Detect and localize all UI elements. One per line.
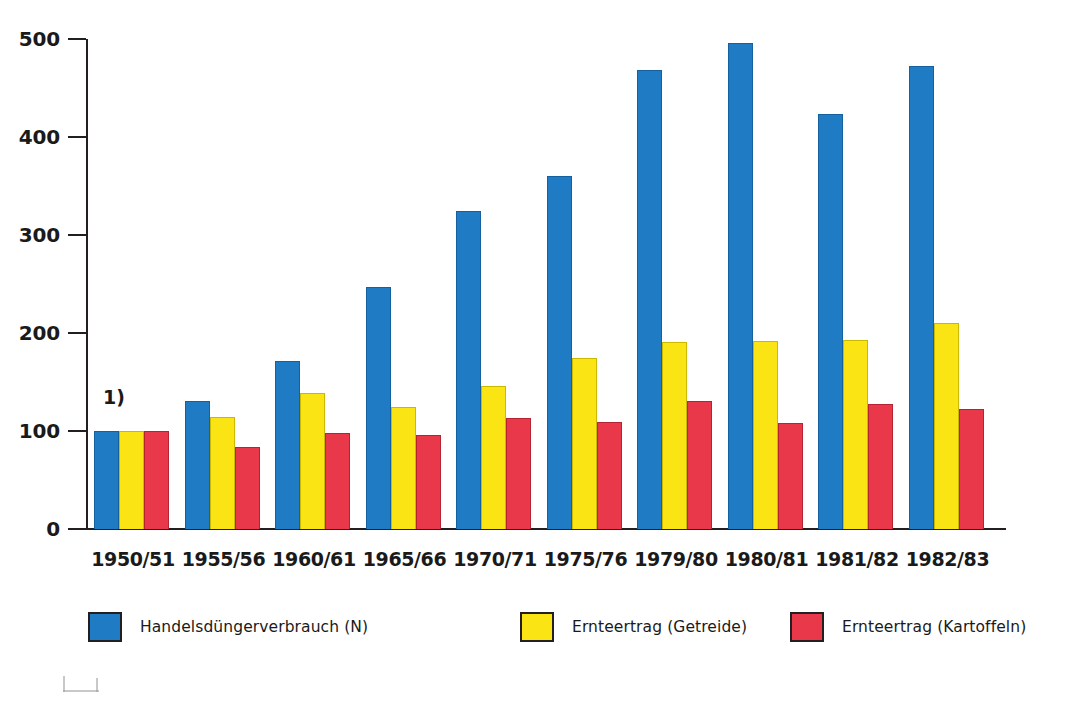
bar-blue-1975-76 bbox=[547, 176, 572, 529]
legend-swatch-yellow bbox=[520, 612, 554, 642]
chart-legend: Handelsdüngerverbrauch (N)Ernteertrag (G… bbox=[0, 612, 1065, 656]
x-axis-label-1950-51: 1950/51 bbox=[91, 548, 174, 570]
bar-group-1960-61 bbox=[275, 39, 353, 529]
x-axis-label-1970-71: 1970/71 bbox=[453, 548, 536, 570]
legend-swatch-red bbox=[790, 612, 824, 642]
legend-label-2: Ernteertrag (Getreide) bbox=[572, 618, 747, 636]
y-tick-300 bbox=[68, 234, 86, 236]
bar-red-1965-66 bbox=[416, 435, 441, 529]
y-tick-500 bbox=[68, 38, 86, 40]
x-axis-label-1965-66: 1965/66 bbox=[363, 548, 446, 570]
bar-yellow-1955-56 bbox=[210, 417, 235, 529]
x-axis-label-1960-61: 1960/61 bbox=[272, 548, 355, 570]
x-axis-label-1980-81: 1980/81 bbox=[725, 548, 808, 570]
x-axis-label-1955-56: 1955/56 bbox=[182, 548, 265, 570]
bar-group-1970-71 bbox=[456, 39, 534, 529]
legend-item-2: Ernteertrag (Getreide) bbox=[520, 612, 747, 642]
bar-group-1981-82 bbox=[818, 39, 896, 529]
x-axis-label-1975-76: 1975/76 bbox=[544, 548, 627, 570]
bar-group-1950-51 bbox=[94, 39, 172, 529]
bar-yellow-1975-76 bbox=[572, 358, 597, 530]
y-tick-100 bbox=[68, 430, 86, 432]
bar-yellow-1979-80 bbox=[662, 342, 687, 529]
bar-yellow-1960-61 bbox=[300, 393, 325, 529]
x-axis-label-1981-82: 1981/82 bbox=[815, 548, 898, 570]
bar-group-1979-80 bbox=[637, 39, 715, 529]
bar-red-1970-71 bbox=[506, 418, 531, 529]
legend-item-1: Handelsdüngerverbrauch (N) bbox=[88, 612, 368, 642]
bar-group-1980-81 bbox=[728, 39, 806, 529]
legend-swatch-blue bbox=[88, 612, 122, 642]
bar-blue-1965-66 bbox=[366, 287, 391, 529]
bar-chart: 5004003002001000 1) 1950/511955/561960/6… bbox=[0, 0, 1065, 701]
bar-red-1950-51 bbox=[144, 431, 169, 529]
y-tick-200 bbox=[68, 332, 86, 334]
bar-group-1955-56 bbox=[185, 39, 263, 529]
bar-blue-1970-71 bbox=[456, 211, 481, 530]
bar-yellow-1970-71 bbox=[481, 386, 506, 529]
bar-red-1960-61 bbox=[325, 433, 350, 529]
bar-yellow-1965-66 bbox=[391, 407, 416, 529]
bar-blue-1981-82 bbox=[818, 114, 843, 529]
y-tick-label-400: 400 bbox=[2, 125, 60, 149]
bar-red-1980-81 bbox=[778, 423, 803, 529]
y-tick-label-500: 500 bbox=[2, 27, 60, 51]
bar-yellow-1982-83 bbox=[934, 323, 959, 529]
bar-red-1982-83 bbox=[959, 409, 984, 529]
bar-red-1955-56 bbox=[235, 447, 260, 529]
x-axis-label-1979-80: 1979/80 bbox=[634, 548, 717, 570]
bar-blue-1960-61 bbox=[275, 361, 300, 529]
bar-group-1965-66 bbox=[366, 39, 444, 529]
bar-blue-1982-83 bbox=[909, 66, 934, 529]
legend-label-1: Handelsdüngerverbrauch (N) bbox=[140, 618, 368, 636]
bar-yellow-1980-81 bbox=[753, 341, 778, 529]
bar-group-1975-76 bbox=[547, 39, 625, 529]
bar-group-1982-83 bbox=[909, 39, 987, 529]
bar-blue-1979-80 bbox=[637, 70, 662, 529]
y-tick-0 bbox=[68, 528, 86, 530]
plot-area bbox=[88, 39, 1006, 529]
bar-blue-1950-51 bbox=[94, 431, 119, 529]
bar-red-1979-80 bbox=[687, 401, 712, 529]
bar-yellow-1981-82 bbox=[843, 340, 868, 529]
bar-blue-1980-81 bbox=[728, 43, 753, 529]
bar-yellow-1950-51 bbox=[119, 431, 144, 529]
y-tick-label-300: 300 bbox=[2, 223, 60, 247]
scan-artifact bbox=[63, 690, 99, 692]
legend-label-3: Ernteertrag (Kartoffeln) bbox=[842, 618, 1026, 636]
y-tick-400 bbox=[68, 136, 86, 138]
bar-red-1975-76 bbox=[597, 422, 622, 529]
x-axis-label-1982-83: 1982/83 bbox=[906, 548, 989, 570]
bar-red-1981-82 bbox=[868, 404, 893, 529]
bar-blue-1955-56 bbox=[185, 401, 210, 529]
y-tick-label-200: 200 bbox=[2, 321, 60, 345]
legend-item-3: Ernteertrag (Kartoffeln) bbox=[790, 612, 1026, 642]
y-tick-label-0: 0 bbox=[2, 517, 60, 541]
y-tick-label-100: 100 bbox=[2, 419, 60, 443]
